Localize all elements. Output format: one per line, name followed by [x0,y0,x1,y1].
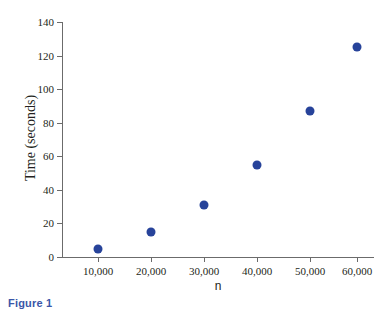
y-tick-label-20-wrap: 20 [12,218,54,229]
x-tick-60000 [357,257,358,262]
x-tick-label-20000: 20,000 [136,266,166,277]
x-axis-title: n [62,279,374,293]
y-tick-40 [57,190,62,191]
x-tick-label-50000: 50,000 [295,266,325,277]
x-tick-label-40000: 40,000 [242,266,272,277]
y-tick-100 [57,89,62,90]
x-tick-label-10000: 10,000 [83,266,113,277]
x-tick-30000 [204,257,205,262]
y-tick-label-120-wrap: 120 [12,51,54,62]
x-tick-label-30000: 30,000 [189,266,219,277]
x-tick-label-60000: 60,000 [342,266,372,277]
y-tick-label-0-wrap: 0 [12,252,54,263]
y-tick-60 [57,156,62,157]
y-tick-140 [57,22,62,23]
data-point [353,43,362,52]
x-tick-10000 [98,257,99,262]
y-tick-120 [57,56,62,57]
x-tick-20000 [151,257,152,262]
y-tick-80 [57,123,62,124]
scatter-plot: 0 20 40 60 80 100 120 140 [0,0,390,295]
y-tick-label-0: 0 [12,252,54,263]
data-point [147,228,156,237]
data-point [306,107,315,116]
x-tick-40000 [257,257,258,262]
figure-container: 0 20 40 60 80 100 120 140 [0,0,390,317]
x-axis-line [62,257,374,258]
data-point [253,161,262,170]
figure-caption: Figure 1 [8,297,52,309]
y-tick-0 [57,257,62,258]
y-tick-label-120: 120 [12,51,54,62]
y-axis-title: Time (seconds) [23,63,39,213]
y-tick-label-20: 20 [12,218,54,229]
y-axis-line [62,22,63,258]
data-point [200,201,209,210]
y-tick-20 [57,223,62,224]
y-tick-label-140-wrap: 140 [12,17,54,28]
x-tick-50000 [310,257,311,262]
y-tick-label-140: 140 [12,17,54,28]
data-point [94,245,103,254]
